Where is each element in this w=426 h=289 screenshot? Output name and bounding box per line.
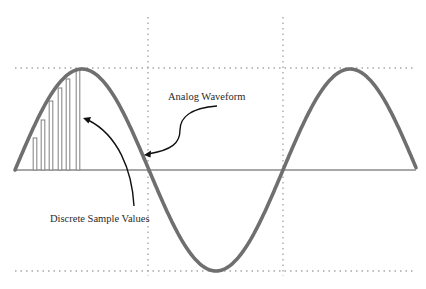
analog-arrow [148,106,217,154]
analog-waveform-callout: Analog Waveform [144,91,245,158]
grid [15,17,416,276]
sampling-diagram: Analog Waveform Discrete Sample Values [0,0,426,289]
sample-bar-3 [49,101,53,170]
sample-bar-4 [58,88,62,170]
discrete-sample-label: Discrete Sample Values [50,213,150,224]
sample-bar-2 [41,120,45,170]
analog-waveform-label: Analog Waveform [168,91,245,102]
sample-bar-1 [33,138,37,170]
discrete-arrow [88,120,134,206]
sample-bar-6 [76,70,80,170]
sample-bar-5 [66,79,70,170]
